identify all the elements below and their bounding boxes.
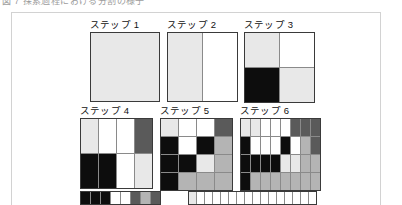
grid-cell (281, 119, 290, 136)
grid-cell (241, 155, 250, 172)
grid-cell (141, 192, 150, 204)
grid-cell (245, 192, 252, 204)
grid-cell (203, 33, 237, 101)
step-panel-2: ステップ 2 (167, 19, 238, 102)
grid-cell (179, 155, 196, 172)
grid-cell (197, 119, 214, 136)
grid-cell (311, 155, 320, 172)
step-grid (240, 118, 321, 191)
grid-cell (261, 173, 270, 190)
grid-cell (81, 119, 98, 153)
grid-cell (291, 137, 300, 154)
grid-cell (261, 137, 270, 154)
grid-cell (197, 137, 214, 154)
grid-cell (301, 119, 310, 136)
grid-cell (291, 155, 300, 172)
grid-cell (309, 192, 316, 204)
grid-cell (205, 192, 212, 204)
step-panel-label: ステップ 4 (80, 105, 153, 116)
grid-cell (281, 155, 290, 172)
grid-cell (301, 137, 310, 154)
grid-cell (91, 33, 159, 101)
grid-cell (251, 155, 260, 172)
grid-cell (215, 119, 232, 136)
grid-cell (213, 192, 220, 204)
grid-cell (280, 68, 314, 102)
step-panel-4: ステップ 4 (80, 105, 153, 189)
grid-cell (301, 155, 310, 172)
grid-cell (189, 192, 196, 204)
grid-cell (215, 137, 232, 154)
grid-cell (229, 192, 236, 204)
grid-cell (251, 119, 260, 136)
grid-cell (241, 173, 250, 190)
grid-cell (291, 119, 300, 136)
grid-cell (215, 155, 232, 172)
grid-cell (131, 192, 140, 204)
grid-cell (221, 192, 228, 204)
grid-cell (311, 173, 320, 190)
step-grid (90, 32, 160, 102)
grid-cell (179, 137, 196, 154)
grid-cell (253, 192, 260, 204)
grid-cell (197, 192, 204, 204)
grid-cell (197, 155, 214, 172)
grid-cell (99, 119, 116, 153)
grid-cell (311, 137, 320, 154)
step-grid (244, 32, 315, 103)
grid-cell (161, 173, 178, 190)
step-panel-label: ステップ 1 (90, 19, 160, 30)
grid-cell (121, 192, 130, 204)
grid-cell (111, 192, 120, 204)
figure-caption: 図 7 探索過程における分割の様子 (0, 0, 402, 6)
grid-cell (281, 137, 290, 154)
grid-cell (261, 155, 270, 172)
step-grid (80, 191, 161, 205)
grid-cell (311, 119, 320, 136)
grid-cell (101, 192, 110, 204)
figure-caption-text: 図 7 探索過程における分割の様子 (0, 0, 402, 6)
step-panel-label: ステップ 6 (240, 105, 321, 116)
step-panel-label: ステップ 5 (160, 105, 233, 116)
grid-cell (261, 192, 268, 204)
grid-cell (280, 33, 314, 67)
grid-cell (277, 192, 284, 204)
grid-cell (241, 119, 250, 136)
grid-cell (271, 137, 280, 154)
grid-cell (271, 119, 280, 136)
step-panel-7: ステップ 7 (80, 191, 161, 205)
step-grid (167, 32, 238, 102)
step-panel-6: ステップ 6 (240, 105, 321, 191)
grid-cell (285, 192, 292, 204)
grid-cell (301, 192, 308, 204)
figure-frame: ステップ 1 ステップ 2 ステップ 3 ステップ 4 ステップ 5 ステップ … (11, 12, 381, 205)
grid-cell (281, 173, 290, 190)
step-panel-5: ステップ 5 (160, 105, 233, 191)
grid-cell (301, 173, 310, 190)
grid-cell (271, 173, 280, 190)
grid-cell (197, 173, 214, 190)
grid-cell (261, 119, 270, 136)
step-panel-1: ステップ 1 (90, 19, 160, 102)
step-grid (80, 118, 153, 189)
grid-cell (245, 68, 279, 102)
grid-cell (271, 155, 280, 172)
grid-cell (117, 119, 134, 153)
step-panel-label: ステップ 2 (167, 19, 238, 30)
grid-cell (291, 173, 300, 190)
grid-cell (161, 137, 178, 154)
grid-cell (179, 119, 196, 136)
grid-cell (161, 119, 178, 136)
step-panel-label: ステップ 3 (244, 19, 315, 30)
step-panel-3: ステップ 3 (244, 19, 315, 103)
grid-cell (215, 173, 232, 190)
grid-cell (151, 192, 160, 204)
grid-cell (251, 173, 260, 190)
grid-cell (179, 173, 196, 190)
grid-cell (99, 154, 116, 188)
step-grid (188, 191, 317, 205)
grid-cell (117, 154, 134, 188)
step-grid (160, 118, 233, 191)
grid-cell (245, 33, 279, 67)
grid-cell (161, 155, 178, 172)
